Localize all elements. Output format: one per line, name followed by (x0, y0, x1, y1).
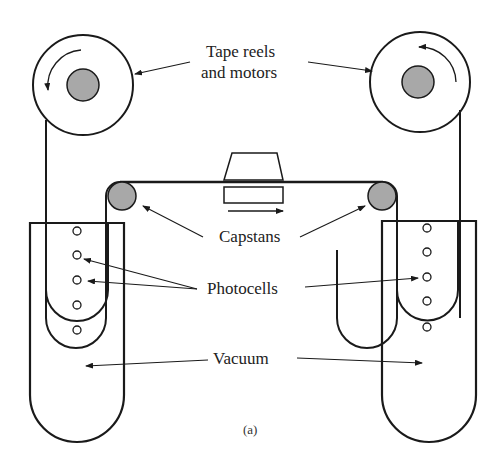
figure-caption: (a) (243, 422, 257, 437)
label-reels-line2: and motors (201, 63, 277, 82)
tape-drive-diagram: Tape reels and motors Capstans Photocell… (0, 0, 504, 461)
label-capstans: Capstans (219, 227, 280, 246)
leader-arrows (84, 62, 422, 366)
left-tape-reel (33, 35, 133, 135)
left-photocells (73, 227, 81, 334)
right-reel-hub (402, 66, 434, 98)
label-vacuum: Vacuum (213, 349, 269, 368)
left-reel-hub (67, 69, 99, 101)
label-reels-line1: Tape reels (206, 42, 275, 61)
right-tape-reel (370, 32, 470, 132)
right-photocells (423, 224, 431, 331)
label-photocells: Photocells (207, 279, 278, 298)
read-write-head (224, 153, 283, 203)
left-capstan (108, 182, 136, 210)
right-capstan (368, 182, 396, 210)
